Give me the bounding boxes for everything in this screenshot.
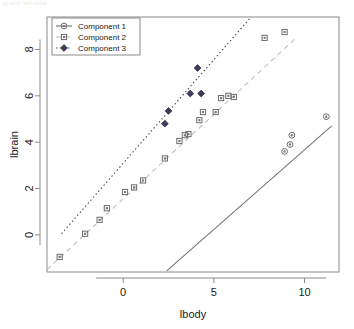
data-point-circle-core: [325, 115, 327, 117]
y-tick-label: 6: [23, 93, 35, 99]
legend-label-3: Component 3: [78, 44, 127, 53]
data-point-circle-core: [289, 143, 291, 145]
data-point-square-core: [198, 119, 200, 121]
data-point-circle-core: [291, 134, 293, 136]
chart-container: graph window 0510lbody02468lbrainCompone…: [0, 0, 354, 329]
data-point-square-core: [187, 133, 189, 135]
data-point-square-core: [133, 186, 135, 188]
y-tick-label: 8: [23, 46, 35, 52]
data-point-square-core: [233, 96, 235, 98]
data-point-square-core: [59, 256, 61, 258]
data-point-circle-core: [283, 150, 285, 152]
legend-marker-circle-core: [63, 25, 65, 27]
data-point-diamond: [165, 107, 172, 114]
data-point-diamond: [187, 90, 194, 97]
data-point-square-core: [164, 157, 166, 159]
legend-marker-square-core: [63, 36, 65, 38]
data-point-square-core: [124, 191, 126, 193]
data-point-diamond: [198, 90, 205, 97]
data-point-square-core: [178, 140, 180, 142]
scatter-plot: 0510lbody02468lbrainComponent 1Component…: [0, 0, 354, 329]
legend-label-1: Component 1: [78, 22, 127, 31]
x-tick-label: 0: [120, 286, 126, 298]
y-axis-title: lbrain: [8, 131, 20, 158]
x-axis-title: lbody: [180, 308, 207, 320]
y-tick-label: 4: [23, 139, 35, 145]
data-point-square-core: [142, 179, 144, 181]
data-point-square-core: [202, 111, 204, 113]
data-point-square-core: [98, 219, 100, 221]
y-tick-label: 2: [23, 185, 35, 191]
legend: Component 1Component 2Component 3: [52, 18, 140, 55]
data-point-square-core: [106, 207, 108, 209]
y-tick-label: 0: [23, 232, 35, 238]
x-tick-label: 5: [211, 286, 217, 298]
data-point-square-core: [215, 111, 217, 113]
fit-lines-group: [47, 18, 332, 271]
fit-line-1: [167, 126, 332, 271]
legend-label-2: Component 2: [78, 33, 127, 42]
data-point-square-core: [84, 233, 86, 235]
data-point-square-core: [283, 31, 285, 33]
data-point-diamond: [194, 65, 201, 72]
x-tick-label: 10: [298, 286, 310, 298]
data-point-square-core: [227, 95, 229, 97]
series-points-2: [57, 29, 287, 259]
data-point-diamond: [161, 120, 168, 127]
data-point-square-core: [264, 37, 266, 39]
data-point-square-core: [220, 97, 222, 99]
